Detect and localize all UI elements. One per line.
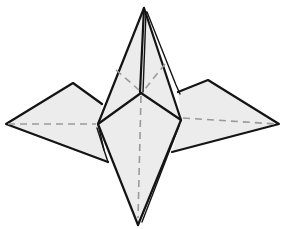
left-wing (6, 83, 108, 162)
right-wing (172, 80, 279, 152)
origami-figure (0, 0, 290, 229)
left-wing-face (6, 83, 108, 162)
origami-diagram (0, 0, 290, 229)
